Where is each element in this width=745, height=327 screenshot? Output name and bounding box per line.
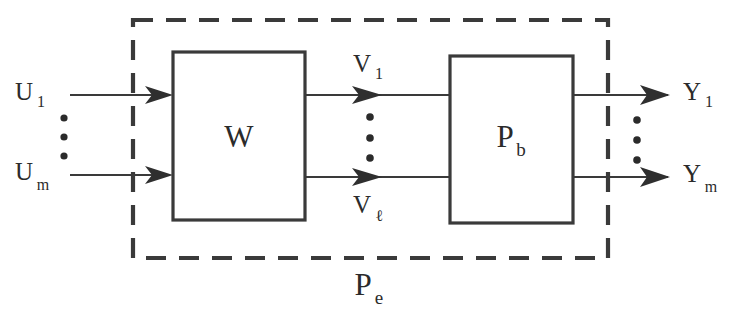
label-input-1-subscript: 1	[37, 93, 45, 110]
label-output-1: Y	[683, 78, 701, 105]
input-ellipsis-dot-1	[60, 114, 67, 121]
output-ellipsis-dot-1	[633, 116, 641, 124]
intermediate-ellipsis-dot-1	[366, 113, 374, 121]
label-intermediate-1-subscript: 1	[375, 65, 383, 82]
block-pb-subscript: b	[516, 139, 526, 160]
intermediate-ellipsis-dot-2	[366, 134, 374, 142]
enclosure-label-subscript: e	[375, 287, 383, 308]
intermediate-ellipsis-dot-3	[366, 154, 374, 162]
output-ellipsis-dot-2	[633, 136, 641, 144]
label-output-1-subscript: 1	[705, 93, 713, 110]
label-input-m-subscript: m	[37, 176, 50, 193]
diagram-canvas: U 1 U m V 1 V ℓ Y 1 Y m W P b P e	[0, 0, 745, 327]
block-w-label: W	[224, 119, 254, 154]
label-output-m-subscript: m	[705, 178, 718, 195]
input-ellipsis-dot-3	[60, 152, 67, 159]
input-ellipsis-dot-2	[60, 133, 67, 140]
label-input-m: U	[15, 158, 33, 185]
label-output-m: Y	[683, 160, 701, 187]
output-ellipsis-dot-3	[633, 156, 641, 164]
label-intermediate-1: V	[353, 50, 371, 77]
label-intermediate-l: V	[353, 191, 371, 218]
label-input-1: U	[15, 78, 33, 105]
label-intermediate-l-subscript: ℓ	[375, 207, 383, 224]
enclosure-label: P	[354, 267, 371, 302]
block-diagram: U 1 U m V 1 V ℓ Y 1 Y m W P b P e	[0, 0, 745, 327]
block-pb-label: P	[496, 119, 513, 154]
